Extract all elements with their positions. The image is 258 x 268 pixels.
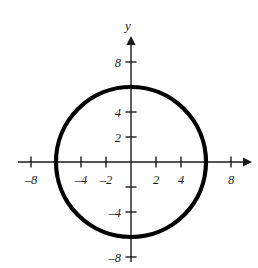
y-tick-label-4: 4 — [115, 106, 121, 120]
x-tick-label--2: –2 — [99, 173, 113, 187]
x-tick-label-8: 8 — [228, 173, 235, 187]
y-tick-label--4: –4 — [108, 206, 122, 220]
x-tick-label-2: 2 — [153, 173, 159, 187]
x-tick-label--8: –8 — [24, 173, 38, 187]
graph-figure: –8 –4 –2 2 4 8 8 4 2 –4 –8 y — [0, 0, 258, 268]
y-axis-label: y — [123, 18, 131, 33]
x-tick-label--4: –4 — [74, 173, 88, 187]
x-tick-label-4: 4 — [178, 173, 184, 187]
y-tick-label-2: 2 — [115, 131, 121, 145]
coordinate-plane-svg: –8 –4 –2 2 4 8 8 4 2 –4 –8 y — [0, 0, 258, 268]
y-tick-label--8: –8 — [108, 251, 122, 265]
y-tick-label-8: 8 — [115, 56, 122, 70]
